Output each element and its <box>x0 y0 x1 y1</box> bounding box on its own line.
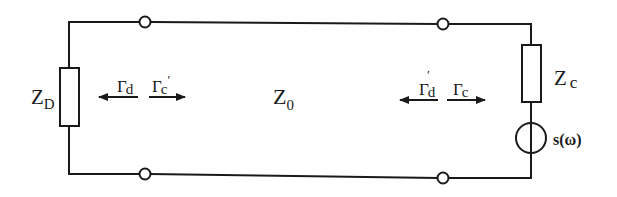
label-gamma-d: Γd <box>117 77 134 97</box>
wire-top-right <box>448 24 531 45</box>
wire-bottom-left <box>69 126 140 174</box>
terminal-bottom-left <box>140 169 151 180</box>
label-zc: Zc <box>554 66 578 92</box>
label-z0: Z0 <box>273 84 294 113</box>
label-gamma-c-prime: Γc′ <box>152 72 171 97</box>
label-gamma-c: Γc <box>453 80 469 100</box>
wire-top-left <box>69 22 143 68</box>
terminal-top-left <box>140 17 151 28</box>
label-gamma-d-prime: Γd <box>419 80 436 100</box>
wire-top <box>151 22 438 24</box>
voltage-source-icon <box>516 123 546 153</box>
load-resistor <box>60 68 79 126</box>
terminal-bottom-right <box>438 173 449 184</box>
source-resistor <box>522 45 541 102</box>
label-zd: ZD <box>31 85 55 112</box>
label-gamma-d-prime-mark: ′ <box>427 67 430 82</box>
circuit-diagram: ZD Z0 Zc s(ω) Γd Γc′ Γd ′ Γc <box>0 0 617 197</box>
wire-bottom-right <box>447 153 531 178</box>
terminal-top-right <box>438 19 449 30</box>
label-source: s(ω) <box>553 131 582 149</box>
wire-bottom <box>150 174 438 178</box>
